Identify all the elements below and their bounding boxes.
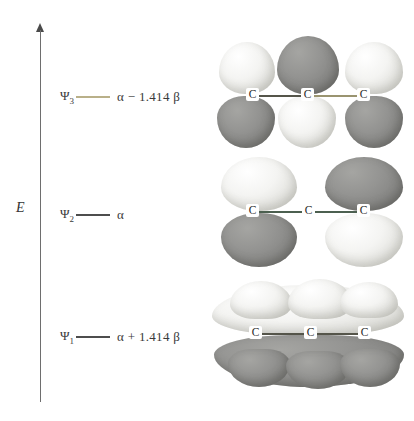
mo-energy-diagram: E Ψ3 α − 1.414 β Ψ2 α Ψ1 α + 1.414 β C C	[0, 0, 414, 421]
lobe-psi1-top-bump-right	[340, 282, 398, 318]
bond-psi3-right	[308, 95, 363, 97]
lobe-psi2-top-right	[325, 157, 403, 211]
bond-psi1-left	[256, 333, 310, 335]
lobe-psi2-bottom-left	[221, 213, 297, 267]
atom-label-psi1-c3: C	[358, 326, 371, 339]
level-label-psi1: Ψ1	[60, 328, 74, 346]
energy-axis-label: E	[16, 200, 25, 216]
bond-row-psi2: C C C	[215, 206, 410, 218]
energy-level-psi2: Ψ2 α	[60, 206, 124, 224]
level-value-psi1: α + 1.414 β	[117, 329, 180, 345]
level-rule-psi2	[76, 214, 110, 216]
orbital-picture-psi3: C C C	[215, 36, 410, 146]
lobe-psi3-top-center	[277, 36, 339, 94]
orbital-picture-psi2: C C C	[215, 155, 410, 267]
level-label-psi2: Ψ2	[60, 206, 74, 224]
bond-psi3-left	[253, 95, 308, 97]
energy-level-psi3: Ψ3 α − 1.414 β	[60, 88, 180, 106]
lobe-psi3-top-left	[219, 42, 275, 94]
atom-label-psi1-c1: C	[249, 326, 262, 339]
lobe-psi2-top-left	[221, 157, 297, 211]
level-value-psi2: α	[117, 207, 124, 223]
level-label-psi3: Ψ3	[60, 88, 74, 106]
bond-row-psi3: C C C	[215, 90, 410, 102]
atom-label-psi3-c1: C	[246, 88, 259, 101]
bond-psi2-right	[309, 211, 363, 213]
lobe-psi3-bottom-right	[345, 96, 403, 148]
atom-label-psi1-c2: C	[304, 326, 317, 339]
lobe-psi2-bottom-right	[325, 213, 403, 267]
orbital-picture-psi1: C C C	[206, 277, 410, 391]
lobe-psi3-bottom-center	[278, 96, 336, 148]
atom-label-psi2-c3: C	[357, 204, 370, 217]
energy-level-psi1: Ψ1 α + 1.414 β	[60, 328, 180, 346]
bond-psi1-right	[310, 333, 364, 335]
bond-row-psi1: C C C	[206, 328, 410, 340]
level-value-psi3: α − 1.414 β	[117, 89, 180, 105]
atom-label-psi3-c3: C	[357, 88, 370, 101]
bond-psi2-left	[253, 211, 309, 213]
energy-axis-line	[40, 30, 41, 402]
lobe-psi3-bottom-left	[217, 96, 275, 148]
atom-label-psi2-c2: C	[302, 204, 315, 217]
atom-label-psi3-c2: C	[301, 88, 314, 101]
level-rule-psi3	[76, 96, 110, 98]
atom-label-psi2-c1: C	[246, 204, 259, 217]
lobe-psi3-top-right	[345, 42, 403, 94]
level-rule-psi1	[76, 336, 110, 338]
